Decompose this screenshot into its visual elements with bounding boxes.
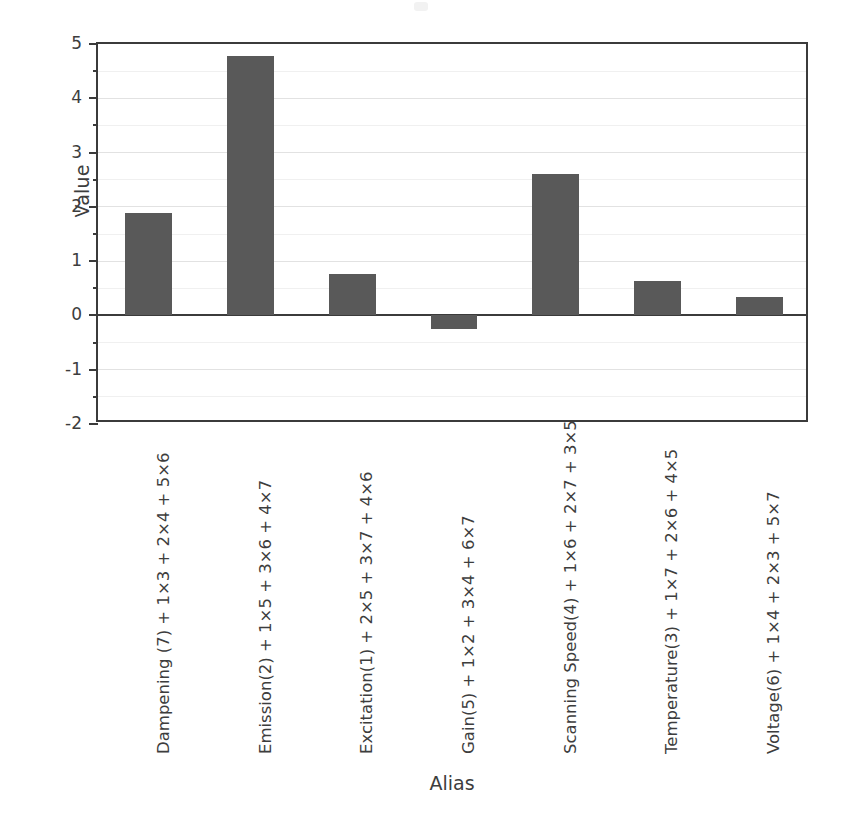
bar[interactable] [634, 281, 681, 315]
gridline [98, 206, 806, 207]
minor-gridline [98, 71, 806, 72]
y-tick-label: 1 [36, 250, 82, 270]
x-tick-label: Excitation(1) + 2×5 + 3×7 + 4×6 [357, 424, 376, 754]
gridline [98, 98, 806, 99]
plot-area: 543210-1-2 [96, 42, 808, 422]
y-tick-major [89, 369, 98, 371]
y-tick-major [89, 97, 98, 99]
y-tick-label: 5 [36, 33, 82, 53]
y-tick-minor [93, 342, 98, 344]
x-tick-label: Dampening (7) + 1×3 + 2×4 + 5×6 [154, 424, 173, 754]
x-tick-label: Temperature(3) + 1×7 + 2×6 + 4×5 [662, 424, 681, 754]
x-tick-label-group: Dampening (7) + 1×3 + 2×4 + 5×6Emission(… [96, 424, 808, 754]
minor-gridline [98, 234, 806, 235]
bar-chart-figure: Value 543210-1-2 Dampening (7) + 1×3 + 2… [0, 0, 854, 826]
bar[interactable] [227, 56, 274, 315]
gridline [98, 261, 806, 262]
page-artifact [414, 2, 428, 11]
minor-gridline [98, 342, 806, 343]
y-tick-label: 0 [36, 304, 82, 324]
bar[interactable] [431, 315, 478, 329]
y-tick-label: -1 [36, 359, 82, 379]
x-axis-title: Alias [96, 772, 808, 794]
bar[interactable] [329, 274, 376, 316]
x-tick-label: Voltage(6) + 1×4 + 2×3 + 5×7 [764, 424, 783, 754]
y-tick-label: 4 [36, 87, 82, 107]
gridline [98, 152, 806, 153]
y-tick-major [89, 206, 98, 208]
y-tick-minor [93, 70, 98, 72]
y-tick-label: -2 [36, 413, 82, 433]
bar[interactable] [125, 213, 172, 316]
y-tick-major [89, 152, 98, 154]
y-tick-label: 3 [36, 142, 82, 162]
y-tick-label: 2 [36, 196, 82, 216]
y-tick-minor [93, 179, 98, 181]
minor-gridline [98, 125, 806, 126]
y-tick-major [89, 43, 98, 45]
y-tick-minor [93, 124, 98, 126]
bar[interactable] [736, 297, 783, 315]
y-tick-major [89, 314, 98, 316]
minor-gridline [98, 288, 806, 289]
bar[interactable] [532, 174, 579, 316]
gridline [98, 369, 806, 370]
x-tick-label: Emission(2) + 1×5 + 3×6 + 4×7 [256, 424, 275, 754]
y-tick-major [89, 260, 98, 262]
minor-gridline [98, 396, 806, 397]
x-tick-label: Gain(5) + 1×2 + 3×4 + 6×7 [459, 424, 478, 754]
y-tick-minor [93, 287, 98, 289]
y-tick-minor [93, 396, 98, 398]
x-tick-label: Scanning Speed(4) + 1×6 + 2×7 + 3×5 [561, 424, 580, 754]
minor-gridline [98, 179, 806, 180]
y-tick-minor [93, 233, 98, 235]
